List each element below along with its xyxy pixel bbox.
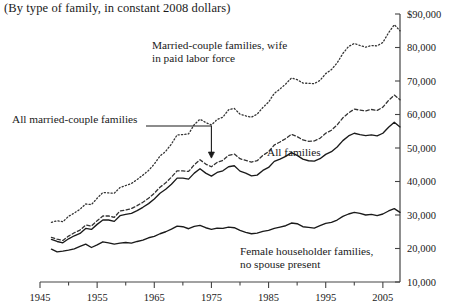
svg-text:50,000: 50,000 [407, 143, 436, 154]
svg-text:1945: 1945 [30, 292, 51, 303]
annotation-all-married-couple-families: All married-couple families [12, 113, 137, 126]
svg-text:1955: 1955 [87, 292, 108, 303]
svg-text:80,000: 80,000 [407, 42, 436, 53]
svg-text:40,000: 40,000 [407, 176, 436, 187]
svg-text:$90,000: $90,000 [407, 9, 441, 20]
svg-text:20,000: 20,000 [407, 243, 436, 254]
svg-text:60,000: 60,000 [407, 109, 436, 120]
annotation-all-families: All families [267, 146, 321, 159]
svg-text:1995: 1995 [315, 292, 336, 303]
annotation-line-2: no spouse present [240, 258, 373, 271]
svg-text:1985: 1985 [258, 292, 279, 303]
annotation-line-1: Married-couple families, wife [152, 39, 287, 52]
annotation-female-householder-families: Female householder families, no spouse p… [240, 245, 373, 271]
annotation-line-2: in paid labor force [152, 52, 287, 65]
annotation-line-1: Female householder families, [240, 245, 373, 258]
svg-text:1975: 1975 [201, 292, 222, 303]
annotation-married-couple-wife-paid-labor: Married-couple families, wife in paid la… [152, 39, 287, 65]
income-by-family-type-chart: (By type of family, in constant 2008 dol… [0, 0, 449, 306]
svg-text:70,000: 70,000 [407, 76, 436, 87]
svg-text:30,000: 30,000 [407, 210, 436, 221]
svg-text:2005: 2005 [372, 292, 393, 303]
svg-text:10,000: 10,000 [407, 277, 436, 288]
svg-text:1965: 1965 [144, 292, 165, 303]
